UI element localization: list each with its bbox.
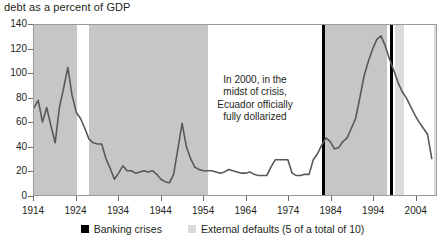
annotation-line: midst of crisis, — [194, 86, 316, 98]
y-axis-tick-label: 60 — [16, 117, 27, 127]
x-axis-tick-label: 1924 — [64, 205, 86, 216]
legend-label: Banking crises — [94, 223, 162, 235]
x-axis-tick-mark — [161, 196, 162, 201]
y-axis-tick-label: 20 — [16, 166, 27, 176]
y-axis-tick-label: 120 — [10, 44, 27, 54]
y-axis-tick-label: 100 — [10, 68, 27, 78]
x-axis-tick-label: 1984 — [320, 205, 342, 216]
x-axis-tick-mark — [76, 196, 77, 201]
x-axis-tick-mark — [373, 196, 374, 201]
x-axis-tick-mark — [331, 196, 332, 201]
x-axis-tick-label: 1964 — [235, 205, 257, 216]
x-axis-tick-label: 1974 — [277, 205, 299, 216]
x-axis-tick-mark — [288, 196, 289, 201]
annotation-line: In 2000, in the — [194, 74, 316, 86]
legend-item: Banking crises — [81, 223, 162, 235]
chart-root: debt as a percent of GDP 140120100806040… — [0, 0, 445, 240]
y-axis-tick-label: 140 — [10, 19, 27, 29]
legend-swatch-crisis — [81, 225, 89, 233]
x-axis-tick-mark — [33, 196, 34, 201]
legend-swatch-default — [188, 225, 196, 233]
x-axis-tick-label: 2004 — [405, 205, 427, 216]
y-axis-tick-label: 80 — [16, 93, 27, 103]
x-axis-tick-label: 1944 — [149, 205, 171, 216]
x-axis-tick-mark — [203, 196, 204, 201]
y-axis: 140120100806040200 — [0, 0, 33, 200]
chart-legend: Banking crisesExternal defaults (5 of a … — [0, 220, 445, 238]
x-axis-tick-label: 1914 — [22, 205, 44, 216]
annotation-line: fully dollarized — [194, 111, 316, 123]
legend-item: External defaults (5 of a total of 10) — [188, 223, 364, 235]
x-axis-tick-mark — [118, 196, 119, 201]
annotation-line: Ecuador officially — [194, 99, 316, 111]
x-axis-tick-label: 1994 — [362, 205, 384, 216]
x-axis-tick-mark — [246, 196, 247, 201]
x-axis-tick-mark — [416, 196, 417, 201]
x-axis-tick-label: 1954 — [192, 205, 214, 216]
legend-label: External defaults (5 of a total of 10) — [201, 223, 364, 235]
y-axis-tick-label: 40 — [16, 142, 27, 152]
x-axis-tick-label: 1934 — [107, 205, 129, 216]
dollarization-annotation: In 2000, in themidst of crisis,Ecuador o… — [194, 74, 316, 124]
